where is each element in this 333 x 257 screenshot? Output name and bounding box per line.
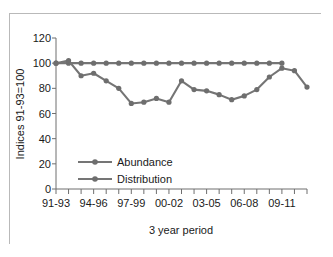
- data-point-marker: [116, 61, 121, 66]
- x-tick-label: 91-93: [42, 197, 70, 209]
- data-point-marker: [66, 58, 71, 63]
- data-point-marker: [166, 61, 171, 66]
- legend-label: Abundance: [117, 156, 173, 168]
- chart-figure-frame: 020406080100120 91-9394-9697-9900-0203-0…: [9, 13, 321, 244]
- chart-svg: 020406080100120 91-9394-9697-9900-0203-0…: [10, 14, 322, 245]
- x-axis-title: 3 year period: [149, 224, 213, 236]
- data-point-marker: [91, 71, 96, 76]
- x-tick-label: 09-11: [268, 197, 295, 209]
- data-point-marker: [191, 61, 196, 66]
- x-tick-label: 06-08: [230, 197, 258, 209]
- data-point-marker: [292, 68, 297, 73]
- legend-swatch-marker: [92, 159, 98, 165]
- x-tick-label: 97-99: [117, 197, 145, 209]
- y-tick-label: 0: [45, 183, 51, 195]
- data-point-marker: [254, 87, 259, 92]
- x-tick-label: 03-05: [193, 197, 221, 209]
- legend-swatch-marker: [92, 176, 98, 182]
- data-point-marker: [229, 97, 234, 102]
- data-point-marker: [129, 61, 134, 66]
- data-point-marker: [91, 61, 96, 66]
- data-point-marker: [279, 66, 284, 71]
- x-axis-tick-marks: [56, 189, 307, 194]
- data-point-marker: [141, 61, 146, 66]
- data-point-marker: [154, 96, 159, 101]
- data-point-marker: [104, 61, 109, 66]
- data-point-marker: [267, 74, 272, 79]
- data-point-marker: [166, 100, 171, 105]
- data-point-marker: [179, 78, 184, 83]
- data-point-marker: [304, 84, 309, 89]
- data-point-marker: [242, 93, 247, 98]
- data-point-marker: [116, 86, 121, 91]
- data-point-marker: [104, 78, 109, 83]
- x-tick-label: 94-96: [80, 197, 108, 209]
- data-point-marker: [279, 61, 284, 66]
- y-tick-label: 100: [33, 57, 51, 69]
- data-point-marker: [229, 61, 234, 66]
- data-point-marker: [267, 61, 272, 66]
- x-tick-label: 00-02: [155, 197, 183, 209]
- data-point-marker: [204, 88, 209, 93]
- data-point-marker: [53, 61, 58, 66]
- data-point-marker: [254, 61, 259, 66]
- data-point-marker: [79, 73, 84, 78]
- x-axis-tick-labels: 91-9394-9697-9900-0203-0506-0809-11: [42, 197, 296, 209]
- data-point-marker: [191, 87, 196, 92]
- data-point-marker: [217, 61, 222, 66]
- line-chart: 020406080100120 91-9394-9697-9900-0203-0…: [10, 14, 322, 245]
- y-tick-label: 80: [39, 82, 51, 94]
- y-tick-label: 120: [33, 32, 51, 44]
- data-point-marker: [154, 61, 159, 66]
- data-point-marker: [129, 101, 134, 106]
- y-tick-label: 20: [39, 158, 51, 170]
- data-point-marker: [204, 61, 209, 66]
- chart-background: [10, 14, 322, 245]
- data-point-marker: [217, 92, 222, 97]
- y-tick-label: 60: [39, 108, 51, 120]
- data-point-marker: [79, 61, 84, 66]
- y-axis-title: Indices 91-93=100: [14, 69, 26, 160]
- legend-label: Distribution: [117, 173, 172, 185]
- data-point-marker: [141, 100, 146, 105]
- data-point-marker: [179, 61, 184, 66]
- data-point-marker: [242, 61, 247, 66]
- y-tick-label: 40: [39, 133, 51, 145]
